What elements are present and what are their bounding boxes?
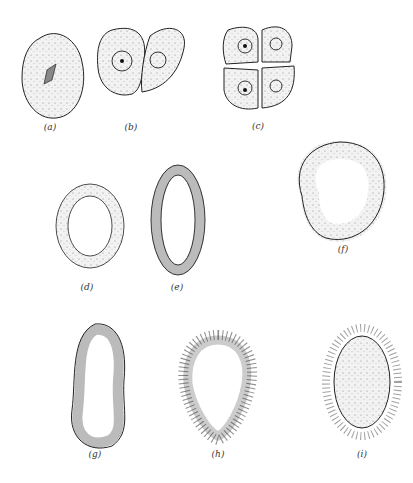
label-b: (b)	[125, 122, 138, 132]
panel-e	[151, 165, 205, 275]
label-h: (h)	[212, 449, 225, 459]
label-c: (c)	[252, 121, 264, 131]
panel-c	[223, 27, 294, 109]
panel-d	[56, 184, 124, 268]
label-i: (i)	[357, 449, 367, 459]
figure: (a) (b) (c) (d) (e) (f) (g) (h) (i)	[0, 0, 413, 483]
label-d: (d)	[81, 282, 94, 292]
label-f: (f)	[338, 244, 348, 254]
panel-g	[71, 324, 124, 448]
panel-i	[326, 328, 398, 436]
panel-a	[22, 34, 84, 119]
illustration	[0, 0, 413, 483]
panel-b	[98, 28, 185, 95]
panel-f	[299, 142, 384, 240]
label-e: (e)	[171, 282, 183, 292]
label-g: (g)	[89, 449, 102, 459]
label-a: (a)	[44, 122, 56, 132]
panel-h	[183, 335, 252, 440]
